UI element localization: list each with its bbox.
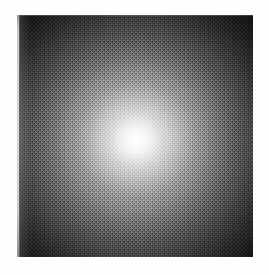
- plate-top-edge-rule: [17, 15, 253, 16]
- figure-root: [0, 0, 269, 275]
- plate-left-edge-rule-shadow: [19, 15, 20, 257]
- corner-vignette: [17, 15, 253, 257]
- grayscale-glow-plate[interactable]: [17, 15, 253, 257]
